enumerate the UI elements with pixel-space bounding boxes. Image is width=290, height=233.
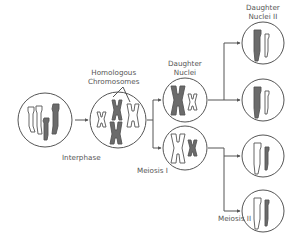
- daughter-nucleus-1-chromosomes: [171, 86, 197, 115]
- daughter-nucleus-2-chromosomes: [171, 134, 197, 163]
- label-line-2: Chromosomes: [88, 78, 139, 87]
- daughter-nuclei-label: Daughter Nuclei: [168, 60, 202, 77]
- daughter-nucleus-ii-3-chromosomes: [254, 143, 269, 174]
- daughter-nucleus-ii-3: [242, 135, 284, 177]
- daughter-nucleus-ii-4-chromosomes: [254, 198, 269, 229]
- label-line-2: Nuclei II: [246, 13, 280, 22]
- homologous-chromosomes: [97, 100, 139, 144]
- daughter-nucleus-ii-2-chromosomes: [254, 87, 269, 118]
- meiosis-ii-label: Meiosis II: [218, 215, 251, 224]
- label-line-2: Nuclei: [168, 69, 202, 78]
- meiosis-i-label: Meiosis I: [137, 167, 168, 176]
- daughter-nuclei-ii-label: Daughter Nuclei II: [246, 4, 280, 21]
- interphase-label: Interphase: [62, 154, 101, 163]
- homologous-chromosomes-label: Homologous Chromosomes: [88, 69, 139, 86]
- daughter-nucleus-ii-1: [242, 22, 284, 64]
- meiosis-diagram: [0, 0, 290, 233]
- interphase-chromosomes: [28, 104, 59, 140]
- daughter-nucleus-ii-4: [242, 190, 284, 232]
- daughter-nucleus-ii-1-chromosomes: [254, 30, 269, 61]
- daughter-nucleus-ii-2: [242, 79, 284, 121]
